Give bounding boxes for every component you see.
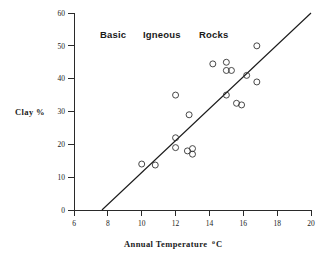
x-tick-label: 8 xyxy=(106,219,110,228)
x-tick-label: 16 xyxy=(240,219,248,228)
y-tick-label: 0 xyxy=(61,206,65,215)
chart-title-word-basic: Basic xyxy=(100,29,126,40)
scatter-plot-figure: 0102030405060 68101214161820 Basic Igneo… xyxy=(0,0,331,263)
x-axis-title-degree-symbol: o xyxy=(212,239,215,245)
y-tick-label: 60 xyxy=(58,9,66,18)
x-axis-title-text: Annual Temperature xyxy=(124,239,207,249)
plot-canvas: 0102030405060 68101214161820 Basic Igneo… xyxy=(0,0,331,263)
y-tick-label: 10 xyxy=(58,173,66,182)
x-tick-label: 12 xyxy=(172,219,180,228)
y-axis-title: Clay % xyxy=(15,107,45,117)
y-tick-label: 20 xyxy=(58,140,66,149)
y-tick-label: 30 xyxy=(58,107,66,116)
chart-title-group: Basic Igneous Rocks xyxy=(100,29,229,40)
x-tick-label: 10 xyxy=(138,219,146,228)
x-axis-title-unit: C xyxy=(216,239,223,249)
chart-title-word-igneous: Igneous xyxy=(143,29,181,40)
x-tick-label: 18 xyxy=(273,219,281,228)
x-tick-label: 14 xyxy=(206,219,214,228)
y-tick-label: 50 xyxy=(58,42,66,51)
x-tick-label: 6 xyxy=(72,219,76,228)
chart-title-word-rocks: Rocks xyxy=(199,29,229,40)
x-tick-label: 20 xyxy=(307,219,315,228)
y-tick-label: 40 xyxy=(58,74,66,83)
